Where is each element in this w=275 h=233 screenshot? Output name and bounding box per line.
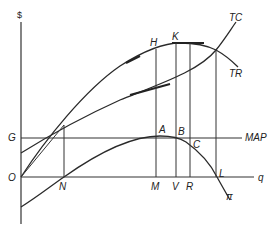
map-label: MAP (245, 132, 267, 143)
a-label: A (158, 124, 166, 135)
m-label: M (151, 181, 160, 192)
origin-label: O (8, 172, 16, 183)
g-label: G (8, 132, 16, 143)
k-label: K (172, 31, 180, 42)
tangent-on-tr (126, 56, 140, 63)
x-axis-label: q (258, 172, 264, 183)
r-label: R (186, 181, 193, 192)
tangent-on-tc (130, 84, 170, 95)
pi-label: π (226, 191, 233, 202)
ray-from-origin (21, 125, 64, 177)
tc-label: TC (229, 12, 243, 23)
total-revenue-curve (21, 43, 238, 177)
c-label: C (193, 139, 201, 150)
y-axis-label: $ (17, 10, 22, 20)
h-label: H (150, 37, 158, 48)
l-label: L (219, 168, 225, 179)
tr-label: TR (229, 68, 242, 79)
b-label: B (178, 126, 185, 137)
profit-maximization-diagram: $ q O MAP G TC TR π H K A B C L N M V R (0, 0, 275, 233)
n-label: N (59, 181, 67, 192)
v-label: V (172, 181, 180, 192)
